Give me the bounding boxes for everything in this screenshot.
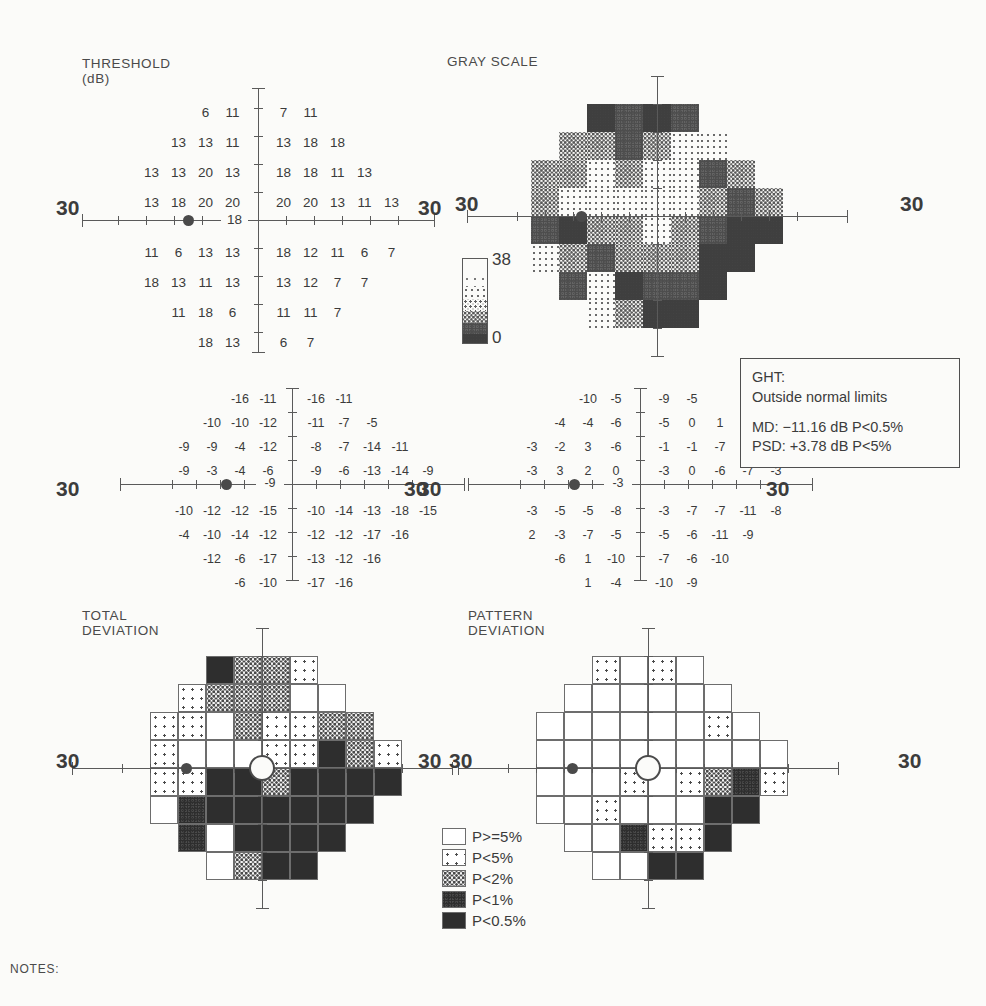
total-deviation-cell (178, 824, 206, 852)
gray-scale-cell (559, 272, 587, 300)
grayscale-right-30-label: 30 (900, 192, 923, 216)
axis-endcap (256, 908, 269, 909)
threshold-value: 7 (324, 275, 351, 290)
total-deviation-cell (178, 712, 206, 740)
td-plot-right-30-label: 30 (418, 749, 441, 773)
gray-scale-key-top-label: 38 (492, 250, 511, 270)
axis-tick (288, 460, 297, 461)
threshold-value: 11 (270, 305, 297, 320)
total-deviation-value: -13 (302, 552, 330, 566)
pattern-deviation-value: -3 (518, 464, 546, 478)
pattern-deviation-cell (648, 852, 676, 880)
axis-tick (288, 436, 297, 437)
total-deviation-cell (206, 740, 234, 768)
pattern-deviation-value: -9 (650, 392, 678, 406)
axis-endcap (286, 388, 299, 389)
total-deviation-cell (290, 740, 318, 768)
total-deviation-cell (262, 656, 290, 684)
threshold-value: 11 (324, 165, 351, 180)
axis-tick (258, 852, 267, 853)
gray-scale-cell (531, 160, 559, 188)
total-deviation-cell (206, 852, 234, 880)
blind-spot-marker (576, 211, 587, 222)
axis-tick (508, 764, 509, 773)
pattern-deviation-value: 0 (678, 416, 706, 430)
total-deviation-value: -6 (226, 552, 254, 566)
total-deviation-value: -6 (330, 464, 358, 478)
total-deviation-value: -9 (170, 464, 198, 478)
axis-tick (122, 764, 123, 773)
blind-spot-marker (183, 215, 194, 226)
axis-tick (545, 212, 546, 221)
total-deviation-value: -12 (330, 528, 358, 542)
threshold-value: 7 (297, 335, 324, 350)
threshold-value: 11 (192, 275, 219, 290)
ght-label: GHT: (752, 367, 949, 387)
total-deviation-value: -13 (358, 504, 386, 518)
blind-spot-marker (221, 479, 232, 490)
pattern-deviation-cell (760, 740, 788, 768)
total-deviation-value: -9 (198, 440, 226, 454)
pattern-deviation-cell (620, 712, 648, 740)
threshold-right-30-label: 30 (418, 196, 441, 220)
threshold-value: 20 (270, 195, 297, 210)
grayscale-left-30-label: 30 (455, 192, 478, 216)
notes-label: NOTES: (10, 962, 59, 976)
pattern-deviation-cell (732, 768, 760, 796)
pattern-deviation-cell (592, 768, 620, 796)
total-deviation-value: -16 (330, 576, 358, 590)
axis-tick (769, 212, 770, 221)
axis-tick (286, 216, 287, 225)
td-numeric-left-30-label: 30 (56, 477, 79, 501)
total-deviation-value: -12 (330, 552, 358, 566)
threshold-value: 18 (297, 135, 324, 150)
gray-scale-cell (559, 132, 587, 160)
axis-tick (636, 436, 645, 437)
total-deviation-value: -14 (226, 528, 254, 542)
total-deviation-value: -11 (386, 440, 414, 454)
axis-tick (653, 160, 662, 161)
axis-tick (178, 764, 179, 773)
pattern-deviation-cell (592, 824, 620, 852)
threshold-left-30-label: 30 (56, 196, 79, 220)
pattern-deviation-value: -3 (546, 528, 574, 542)
pattern-deviation-cell (704, 712, 732, 740)
total-deviation-cell (234, 712, 262, 740)
pattern-deviation-value: 2 (518, 528, 546, 542)
threshold-value: 13 (192, 135, 219, 150)
legend-item: P<0.5% (442, 910, 592, 931)
axis-tick (760, 764, 761, 773)
gray-scale-cell (615, 132, 643, 160)
pattern-deviation-value: -8 (602, 504, 630, 518)
threshold-value: 7 (270, 105, 297, 120)
pattern-deviation-value: -5 (650, 416, 678, 430)
gray-scale-cell (699, 272, 727, 300)
total-deviation-value: -9 (170, 440, 198, 454)
axis-endcap (252, 88, 265, 89)
fixation-target (249, 755, 275, 781)
total-deviation-cell (206, 768, 234, 796)
axis-tick (636, 412, 645, 413)
pattern-deviation-value: -11 (706, 528, 734, 542)
pattern-deviation-cell (676, 824, 704, 852)
axis-tick (653, 244, 662, 245)
pattern-deviation-cell (536, 740, 564, 768)
axis-endcap (464, 478, 465, 491)
pattern-deviation-cell (676, 684, 704, 712)
axis-tick (644, 880, 653, 881)
total-deviation-cell (262, 712, 290, 740)
pattern-deviation-cell (620, 824, 648, 852)
total-deviation-cell (346, 796, 374, 824)
pattern-deviation-cell (620, 684, 648, 712)
psd-line: PSD: +3.78 dB P<5% (752, 437, 949, 456)
total-deviation-value: -10 (226, 416, 254, 430)
axis-tick (788, 764, 789, 773)
total-deviation-cell (290, 768, 318, 796)
gray-scale-cell (727, 244, 755, 272)
axis-tick (653, 132, 662, 133)
axis-tick (644, 796, 653, 797)
axis-tick (644, 852, 653, 853)
pattern-deviation-value: -3 (650, 464, 678, 478)
pattern-deviation-value: -3 (518, 504, 546, 518)
axis-tick (258, 656, 267, 657)
